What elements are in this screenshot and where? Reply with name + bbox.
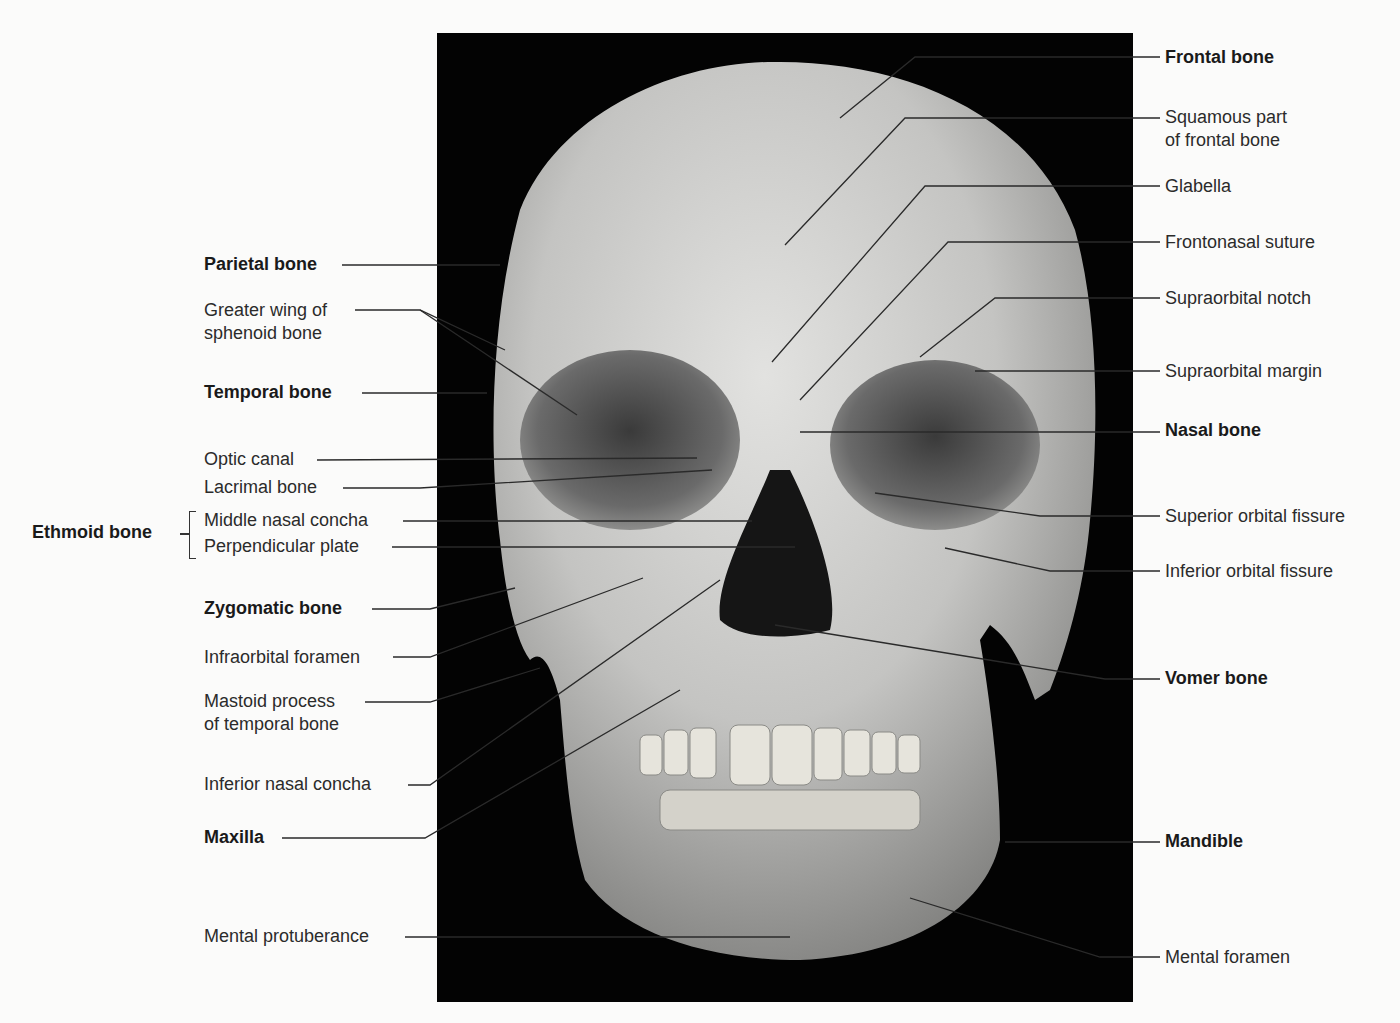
label-infraorbital-foramen: Infraorbital foramen — [204, 646, 360, 669]
label-line-2: sphenoid bone — [204, 322, 327, 345]
label-supraorbital-margin: Supraorbital margin — [1165, 360, 1322, 383]
label-greater-wing-of-sphenoid: Greater wing of sphenoid bone — [204, 299, 327, 345]
label-line-2: of temporal bone — [204, 713, 339, 736]
label-glabella: Glabella — [1165, 175, 1231, 198]
label-lacrimal-bone: Lacrimal bone — [204, 476, 317, 499]
label-superior-orbital-fissure: Superior orbital fissure — [1165, 505, 1345, 528]
label-middle-nasal-concha: Middle nasal concha — [204, 509, 368, 532]
label-ethmoid-bone: Ethmoid bone — [32, 521, 152, 544]
label-parietal-bone: Parietal bone — [204, 253, 317, 276]
ethmoid-bracket-tick — [180, 533, 189, 535]
label-zygomatic-bone: Zygomatic bone — [204, 597, 342, 620]
label-supraorbital-notch: Supraorbital notch — [1165, 287, 1311, 310]
label-mental-foramen: Mental foramen — [1165, 946, 1290, 969]
label-mastoid-process: Mastoid process of temporal bone — [204, 690, 339, 736]
label-line-1: Greater wing of — [204, 299, 327, 322]
label-maxilla: Maxilla — [204, 826, 264, 849]
label-vomer-bone: Vomer bone — [1165, 667, 1268, 690]
label-line-2: of frontal bone — [1165, 129, 1287, 152]
label-inferior-orbital-fissure: Inferior orbital fissure — [1165, 560, 1333, 583]
label-inferior-nasal-concha: Inferior nasal concha — [204, 773, 371, 796]
right-orbit — [520, 350, 740, 530]
label-squamous-part: Squamous part of frontal bone — [1165, 106, 1287, 152]
label-frontonasal-suture: Frontonasal suture — [1165, 231, 1315, 254]
label-mandible: Mandible — [1165, 830, 1243, 853]
label-optic-canal: Optic canal — [204, 448, 294, 471]
label-line-1: Squamous part — [1165, 106, 1287, 129]
label-nasal-bone: Nasal bone — [1165, 419, 1261, 442]
ethmoid-bracket — [189, 511, 196, 559]
label-frontal-bone: Frontal bone — [1165, 46, 1274, 69]
left-orbit — [830, 360, 1040, 530]
label-mental-protuberance: Mental protuberance — [204, 925, 369, 948]
label-perpendicular-plate: Perpendicular plate — [204, 535, 359, 558]
label-temporal-bone: Temporal bone — [204, 381, 332, 404]
label-line-1: Mastoid process — [204, 690, 339, 713]
